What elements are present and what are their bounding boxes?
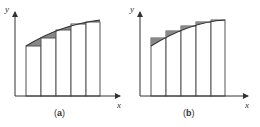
x-axis-label-b: x	[245, 100, 249, 110]
panel-a	[15, 12, 120, 96]
y-axis-label-b: y	[130, 4, 134, 14]
caption-a: (a)	[54, 108, 65, 118]
panel-b	[140, 12, 248, 96]
riemann-sum-diagrams	[0, 0, 260, 127]
x-axis-label-a: x	[117, 100, 121, 110]
y-axis-label-a: y	[5, 4, 9, 14]
caption-b: (b)	[183, 108, 195, 118]
